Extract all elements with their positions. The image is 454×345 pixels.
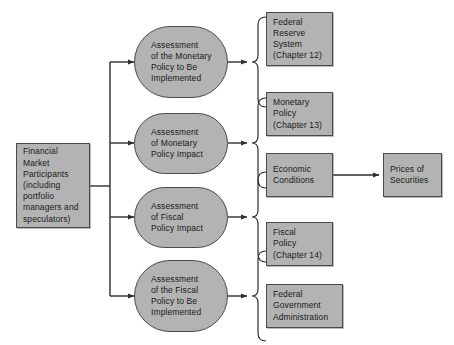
assessment-monetary-policy-impact: Assessment of Monetary Policy Impact <box>134 113 228 174</box>
assessment-3-line-1: of Fiscal <box>151 212 184 223</box>
assessment-fiscal-policy-to-be-implemented: Assessment of the Fiscal Policy to Be Im… <box>134 260 228 332</box>
source-line-1: Market <box>23 158 83 169</box>
assessment-2-line-1: of Monetary <box>151 138 197 149</box>
source-line-2: Participants <box>23 169 83 180</box>
assessment-4-line-2: Policy to Be <box>151 296 197 307</box>
assessment-4-line-1: of the Fiscal <box>151 285 198 296</box>
financial-market-participants: Financial Market Participants (including… <box>16 143 90 228</box>
factor-5-line-0: Federal <box>273 289 336 300</box>
federal-reserve-system: Federal Reserve System (Chapter 12) <box>266 12 333 66</box>
assessment-2-line-2: Policy Impact <box>151 149 203 160</box>
outcome-line-1: Securities <box>390 175 435 186</box>
factor-4-line-1: Policy <box>273 238 326 249</box>
assessment-fiscal-policy-impact: Assessment of Fiscal Policy Impact <box>134 187 228 248</box>
monetary-policy: Monetary Policy (Chapter 13) <box>266 92 333 136</box>
source-line-0: Financial <box>23 146 83 157</box>
assessment-monetary-policy-to-be-implemented: Assessment of the Monetary Policy to Be … <box>134 26 228 98</box>
source-line-4: portfolio <box>23 191 83 202</box>
source-line-6: speculators) <box>23 214 83 225</box>
factor-4-line-0: Fiscal <box>273 227 326 238</box>
brace-assessment-4 <box>252 251 266 341</box>
factor-4-line-2: (Chapter 14) <box>273 250 326 261</box>
factor-1-line-3: (Chapter 12) <box>273 50 326 61</box>
assessment-4-line-0: Assessment <box>151 274 198 285</box>
diagram-canvas: Financial Market Participants (including… <box>0 0 454 345</box>
assessment-1-line-0: Assessment <box>151 40 198 51</box>
assessment-1-line-1: of the Monetary <box>151 51 212 62</box>
factor-1-line-0: Federal <box>273 17 326 28</box>
factor-2-line-0: Monetary <box>273 97 326 108</box>
factor-2-line-2: (Chapter 13) <box>273 120 326 131</box>
assessment-2-line-0: Assessment <box>151 127 198 138</box>
factor-1-line-2: System <box>273 39 326 50</box>
factor-1-line-1: Reserve <box>273 28 326 39</box>
factor-3-line-0: Economic <box>273 164 326 175</box>
factor-2-line-1: Policy <box>273 108 326 119</box>
factor-5-line-2: Administration <box>273 312 336 323</box>
fiscal-policy: Fiscal Policy (Chapter 14) <box>266 222 333 266</box>
assessment-1-line-2: Policy to Be <box>151 62 197 73</box>
assessment-1-line-3: Implemented <box>151 73 201 84</box>
assessment-3-line-0: Assessment <box>151 201 198 212</box>
factor-3-line-1: Conditions <box>273 175 326 186</box>
outcome-line-0: Prices of <box>390 164 435 175</box>
assessment-3-line-2: Policy Impact <box>151 223 203 234</box>
prices-of-securities: Prices of Securities <box>383 153 442 197</box>
factor-5-line-1: Government <box>273 300 336 311</box>
assessment-4-line-3: Implemented <box>151 307 201 318</box>
source-line-5: managers and <box>23 202 83 213</box>
federal-government-administration: Federal Government Administration <box>266 284 343 328</box>
source-line-3: (including <box>23 180 83 191</box>
economic-conditions: Economic Conditions <box>266 153 333 197</box>
brace-assessment-1 <box>252 17 266 107</box>
